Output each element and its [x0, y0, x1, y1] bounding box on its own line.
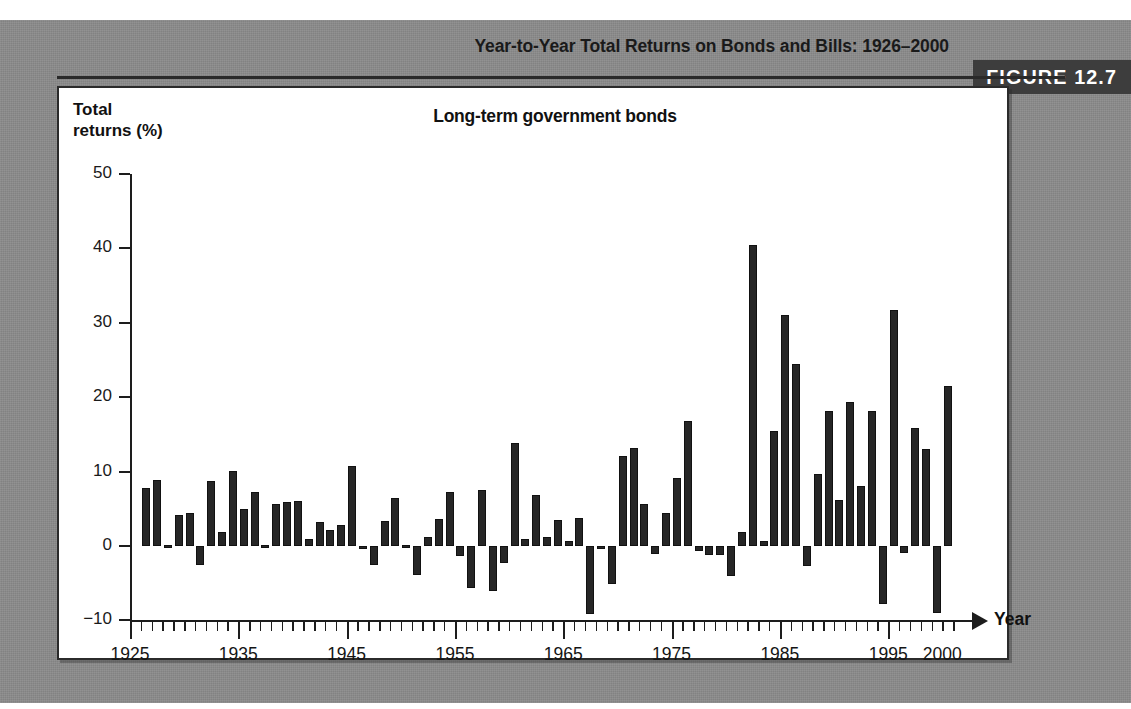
x-axis-minor-tick: [314, 622, 315, 631]
bar: [261, 545, 269, 548]
bar: [381, 521, 389, 546]
bar: [814, 474, 822, 546]
x-axis-minor-tick: [444, 622, 445, 631]
x-axis-minor-tick: [856, 622, 857, 631]
bar: [402, 545, 410, 548]
bar: [803, 546, 811, 566]
x-axis-tick-label: 1965: [544, 644, 583, 665]
x-axis-minor-tick: [921, 622, 922, 631]
x-axis-tick-label: 1985: [760, 644, 799, 665]
x-axis-minor-tick: [823, 622, 824, 631]
bar: [727, 546, 735, 576]
y-axis-tick: [119, 471, 130, 473]
bar: [424, 537, 432, 546]
bar: [781, 315, 789, 546]
bar: [933, 546, 941, 613]
x-axis-minor-tick: [834, 622, 835, 631]
bar: [511, 443, 519, 546]
bar: [575, 518, 583, 546]
bar: [890, 310, 898, 546]
y-axis-tick-label: −10: [50, 609, 112, 629]
bar: [326, 530, 334, 546]
x-axis-minor-tick: [466, 622, 467, 631]
x-axis-minor-tick: [282, 622, 283, 631]
bar: [446, 492, 454, 546]
x-axis-minor-tick: [433, 622, 434, 631]
bar: [857, 486, 865, 546]
x-axis-minor-tick: [412, 622, 413, 631]
bar: [251, 492, 259, 546]
figure-header: Year-to-Year Total Returns on Bonds and …: [0, 28, 1131, 68]
x-axis-minor-tick: [812, 622, 813, 631]
y-axis-tick-label: 0: [50, 535, 112, 555]
x-axis-minor-tick: [867, 622, 868, 631]
bar: [391, 498, 399, 546]
figure-root: Year-to-Year Total Returns on Bonds and …: [0, 0, 1131, 709]
bar: [944, 386, 952, 546]
plot-area: Year 50403020100−10192519351945195519651…: [59, 88, 1011, 662]
x-axis-minor-tick: [845, 622, 846, 631]
bar: [413, 546, 421, 575]
x-axis-minor-tick: [390, 622, 391, 631]
bar: [164, 545, 172, 548]
bar: [630, 448, 638, 546]
x-axis-minor-tick: [509, 622, 510, 631]
x-axis-major-tick: [238, 622, 240, 639]
bar: [565, 541, 573, 546]
x-axis-minor-tick: [227, 622, 228, 631]
bar: [175, 515, 183, 546]
y-axis-tick-label: 20: [50, 386, 112, 406]
bar: [207, 481, 215, 546]
y-axis-tick: [119, 545, 130, 547]
x-axis-minor-tick: [195, 622, 196, 631]
bar: [500, 546, 508, 563]
x-axis-minor-tick: [303, 622, 304, 631]
x-axis-minor-tick: [336, 622, 337, 631]
x-axis-minor-tick: [639, 622, 640, 631]
x-axis-minor-tick: [531, 622, 532, 631]
y-axis-tick-label: 30: [50, 312, 112, 332]
bar: [305, 539, 313, 546]
x-axis-tick-label: 1975: [652, 644, 691, 665]
x-axis-tick-label: 2000: [923, 644, 962, 665]
x-axis-minor-tick: [260, 622, 261, 631]
x-axis-minor-tick: [953, 622, 954, 631]
x-axis-minor-tick: [758, 622, 759, 631]
x-axis-minor-tick: [899, 622, 900, 631]
x-axis-minor-tick: [542, 622, 543, 631]
bar: [879, 546, 887, 604]
bar: [218, 532, 226, 546]
bar: [153, 480, 161, 546]
x-axis-tick-label: 1945: [327, 644, 366, 665]
x-axis-minor-tick: [802, 622, 803, 631]
x-axis-minor-tick: [477, 622, 478, 631]
bar: [911, 428, 919, 546]
bar: [792, 364, 800, 546]
x-axis-major-tick: [130, 622, 132, 639]
x-axis-minor-tick: [942, 622, 943, 631]
x-axis-minor-tick: [368, 622, 369, 631]
bar: [283, 502, 291, 546]
y-axis-line: [130, 174, 132, 620]
x-axis-arrow-icon: [972, 612, 988, 630]
x-axis-minor-tick: [737, 622, 738, 631]
header-divider: [57, 76, 1065, 79]
bar: [478, 490, 486, 546]
bar: [619, 456, 627, 546]
x-axis-major-tick: [347, 622, 349, 639]
bar: [294, 501, 302, 546]
bar: [705, 546, 713, 555]
bar: [651, 546, 659, 554]
bar: [662, 513, 670, 546]
bar: [597, 546, 605, 549]
x-axis-minor-tick: [596, 622, 597, 631]
x-axis-minor-tick: [141, 622, 142, 631]
x-axis-minor-tick: [747, 622, 748, 631]
x-axis-minor-tick: [292, 622, 293, 631]
x-axis-minor-tick: [152, 622, 153, 631]
bar: [337, 525, 345, 546]
bar: [435, 519, 443, 546]
x-axis-minor-tick: [325, 622, 326, 631]
x-axis-tick-label: 1935: [219, 644, 258, 665]
x-axis-major-tick: [672, 622, 674, 639]
